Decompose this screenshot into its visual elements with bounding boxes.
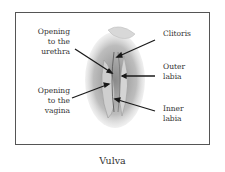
label-vagina: Opening to the vagina: [28, 86, 70, 116]
label-vagina-line1: Opening: [28, 86, 70, 96]
label-clitoris-line1: Clitoris: [163, 29, 191, 39]
label-urethra-line1: Opening: [28, 27, 70, 37]
label-inner-labia-line1: Inner: [163, 104, 184, 114]
label-vagina-line3: vagina: [28, 106, 70, 116]
label-outer-labia: Outer labia: [163, 62, 185, 82]
label-urethra-line3: urethra: [28, 47, 70, 57]
label-inner-labia: Inner labia: [163, 104, 184, 124]
label-outer-labia-line2: labia: [163, 72, 185, 82]
label-urethra: Opening to the urethra: [28, 27, 70, 57]
label-vagina-line2: to the: [28, 96, 70, 106]
diagram-caption: Vulva: [0, 155, 225, 166]
illustration-body: [85, 27, 145, 128]
label-clitoris: Clitoris: [163, 29, 191, 39]
label-outer-labia-line1: Outer: [163, 62, 185, 72]
label-urethra-line2: to the: [28, 37, 70, 47]
label-inner-labia-line2: labia: [163, 114, 184, 124]
